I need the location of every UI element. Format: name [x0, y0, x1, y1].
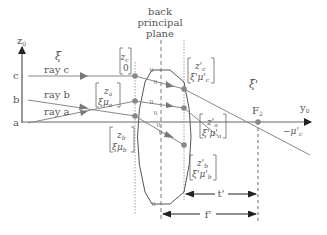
point-b-label: b [13, 94, 19, 105]
svg-text:ξ'μ'c: ξ'μ'c [190, 72, 210, 83]
svg-text:z'b: z'b [196, 158, 208, 169]
svg-text:plane: plane [146, 28, 174, 39]
svg-text:ξ'μ'a: ξ'μ'a [202, 128, 222, 139]
optical-diagram: z0 y0 ξ ξ' back principal plane [0, 0, 327, 235]
svg-text:ξμb: ξμb [112, 142, 127, 153]
intersection-points [132, 73, 261, 148]
back-principal-plane-title: back principal plane [137, 6, 182, 39]
output-vector-c: z'c ξ'μ'c [188, 58, 214, 83]
ray-c [28, 72, 310, 155]
svg-text:ξ'μ'b: ξ'μ'b [192, 169, 212, 180]
t-prime-label: t' [218, 188, 225, 199]
svg-text:principal: principal [137, 17, 182, 28]
f-prime-label: f' [205, 209, 211, 220]
f-dimension: f' [163, 209, 256, 220]
angle-label: −μ'c [283, 126, 303, 137]
input-vector-c: zc 0 [120, 48, 132, 74]
point-c-label: c [13, 70, 19, 81]
svg-text:z'a: z'a [206, 117, 218, 128]
object-space-label: ξ [55, 50, 62, 63]
focal-point-label: F2 [252, 105, 263, 117]
output-vector-a: z'a ξ'μ'a [200, 114, 226, 139]
output-vector-b: z'b ξ'μ'b [190, 155, 216, 180]
input-vector-b: zb ξμb [110, 127, 134, 153]
ray-b-label: ray b [44, 89, 70, 100]
ray-a-label: ray a [44, 106, 70, 117]
svg-text:0: 0 [123, 63, 129, 73]
svg-text:ξμa: ξμa [98, 97, 113, 108]
parallel-tick-marks [150, 68, 162, 206]
image-space-label: ξ' [249, 78, 258, 91]
t-dimension: t' [186, 188, 256, 199]
svg-text:back: back [148, 6, 173, 17]
svg-text:z'c: z'c [194, 61, 206, 72]
z0-axis-label: z0 [17, 35, 26, 47]
svg-text:zb: zb [116, 130, 126, 141]
svg-text:za: za [103, 86, 113, 97]
y0-axis-label: y0 [299, 102, 310, 114]
input-vector-a: za ξμa [96, 83, 120, 108]
svg-text:zc: zc [120, 52, 130, 63]
point-a-label: a [13, 117, 19, 128]
ray-c-label: ray c [44, 64, 70, 75]
